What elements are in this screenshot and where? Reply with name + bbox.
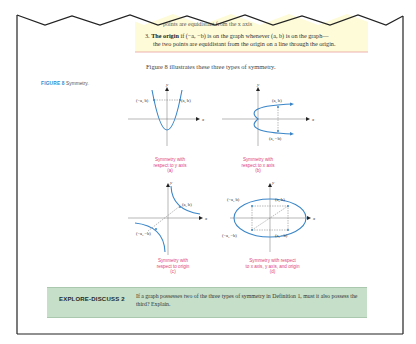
x-axis-label: x [201,117,205,122]
x-axis-arrow-icon [196,117,200,121]
x-axis-arrow-icon [199,216,203,220]
point-top [277,106,279,108]
caption-line: (d) [225,269,320,275]
point-top-label: (a, b) [272,98,282,104]
point-left-label: (−a, −b) [136,231,151,237]
point-bl-label: (−a, −b) [222,233,237,239]
point-right-label: (a, b) [182,202,192,208]
y-axis-arrow-icon [256,87,260,91]
point-tl-label: (−a, b) [227,197,240,203]
y-axis-label: y [165,84,169,87]
x-axis-arrow-icon [306,117,310,121]
y-axis-label: y [169,180,173,185]
point-bottom [277,130,279,132]
point-right [179,206,181,208]
x-axis-label: x [311,117,315,122]
x-axis-label: x [312,216,316,221]
definition-term: The origin [151,32,179,39]
caption-panel-b: Symmetry with respect to x axis (b) [228,157,288,174]
explore-discuss-title: EXPLORE-DISCUSS 2 [59,296,125,302]
intro-sentence: Figure 8 illustrates these three types o… [146,63,276,70]
point-br-label: (a, −b) [275,233,288,239]
y-axis-label: y [271,180,275,185]
point-left-label: (−a, b) [136,98,149,104]
cut-off-text-line: points are equidistant from the x axis [163,21,252,27]
x-axis-label: x [204,216,208,221]
graph-panel-d: x y (−a, b) (a, b) (−a, −b) (a, −b) [220,180,330,255]
figure-label: FIGURE 8 Symmetry. [41,81,89,86]
x-axis-arrow-icon [307,216,311,220]
caption-line: (a) [140,168,200,174]
point-right-label: (a, b) [181,98,191,104]
symmetry-dashed-line [148,206,180,231]
y-axis-arrow-icon [165,87,169,91]
caption-line: (c) [143,269,203,275]
point-tr [287,205,289,207]
y-axis-label: y [256,84,260,87]
item-number: 3. [145,32,150,39]
caption-panel-d: Symmetry with respect to x axis, y axis,… [225,258,320,275]
point-bottom-label: (a, −b) [269,136,282,142]
figure-caption-title: Symmetry. [66,81,89,86]
explore-discuss-text: If a graph possesses two of the three ty… [136,293,362,308]
graph-panel-a: x y (−a, b) (a, b) [120,84,220,146]
graph-panel-c: x y (a, b) (−a, −b) [120,180,220,255]
curve-arrow-icon [290,103,294,107]
curve-arrow-icon [290,132,294,136]
point-tr-label: (a, b) [275,197,285,203]
point-tl [251,205,253,207]
point-left [155,228,157,230]
hyperbola-branch-right [171,186,200,214]
point-br [287,229,289,231]
point-left [153,99,155,101]
definition-item-3: 3. The origin if (−a, −b) is on the grap… [145,32,365,48]
definition-text-line1: if (−a, −b) is on the graph whenever (a,… [180,32,328,39]
point-bl [251,229,253,231]
graph-panel-b: x y (a, b) (a, −b) [220,84,320,146]
caption-panel-a: Symmetry with respect to y axis (a) [140,157,200,174]
definition-text-line2: the two points are equidistant from the … [145,40,365,48]
caption-panel-c: Symmetry with respect to origin (c) [143,258,203,275]
hyperbola-branch-left [135,223,165,252]
figure-number: FIGURE 8 [41,81,65,86]
caption-line: (b) [228,168,288,174]
